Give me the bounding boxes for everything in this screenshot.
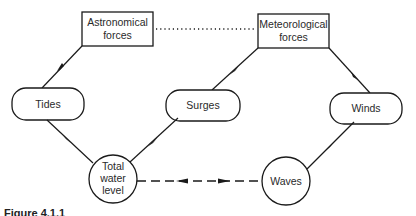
node-waves: Waves <box>262 157 310 205</box>
edge-meteorological-to-surges <box>212 48 258 90</box>
meteorological-label-line1: Meteorological <box>259 18 327 30</box>
waves-label: Waves <box>270 175 302 187</box>
arrowhead-icon <box>57 63 64 71</box>
total-water-level-line1: Total <box>102 160 124 172</box>
node-tides: Tides <box>12 88 84 120</box>
node-winds: Winds <box>330 93 402 124</box>
winds-label: Winds <box>351 102 380 114</box>
edge-tides-to-total-water-level <box>47 120 93 163</box>
arrowhead-icon <box>325 142 334 151</box>
arrow-left-icon <box>176 179 188 184</box>
node-surges: Surges <box>166 90 240 121</box>
edge-winds-to-waves <box>307 122 354 169</box>
astronomical-label-line2: forces <box>103 29 132 41</box>
total-water-level-line3: level <box>102 184 124 196</box>
edge-astronomical-to-tides <box>42 46 82 88</box>
node-meteorological-forces: Meteorological forces <box>258 14 329 48</box>
node-astronomical-forces: Astronomical forces <box>82 12 153 46</box>
edge-meteorological-to-winds <box>329 48 370 93</box>
coastal-water-level-diagram: Astronomical forces Meteorological force… <box>0 0 416 216</box>
meteorological-label-line2: forces <box>279 31 308 43</box>
arrow-right-icon <box>218 179 230 184</box>
node-total-water-level: Total water level <box>89 155 137 203</box>
tides-label: Tides <box>35 98 60 110</box>
total-water-level-line2: water <box>99 172 126 184</box>
surges-label: Surges <box>186 99 219 111</box>
figure-caption: Figure 4.1.1 <box>4 207 65 216</box>
edge-total-water-level-waves-dashed <box>137 179 262 184</box>
astronomical-label-line1: Astronomical <box>87 16 148 28</box>
edge-surges-to-total-water-level <box>130 118 178 162</box>
